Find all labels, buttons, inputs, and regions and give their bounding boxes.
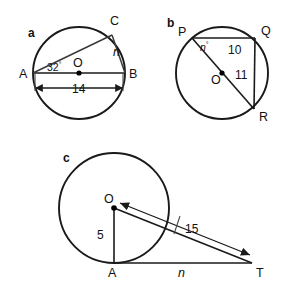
panel-b-angle-degree: °	[206, 41, 209, 48]
panel-c-group: c O A T 5 15 n	[59, 151, 264, 280]
panel-c-radius-label: 5	[97, 228, 104, 242]
panel-b-angle-label: n°	[200, 41, 209, 53]
panel-a-vertex-C: C	[110, 14, 119, 28]
geometry-figure-page: a A B C O 32° 14 n b P Q R O n° 10	[0, 0, 302, 290]
panel-c-hypotenuse-OT	[114, 208, 252, 263]
panel-c-center-label: O	[104, 192, 114, 206]
panel-a-center-dot	[76, 70, 81, 75]
panel-a-letter: a	[28, 26, 35, 40]
panel-b-chord-QR	[254, 38, 255, 109]
panel-a-angle-label: 32°	[47, 61, 62, 73]
panel-c-vertex-A: A	[108, 266, 117, 280]
panel-c-vertex-T: T	[256, 266, 264, 280]
panel-b-letter: b	[167, 16, 174, 30]
panel-b-group: b P Q R O n° 10 11	[167, 16, 271, 124]
panel-c-letter: c	[63, 151, 70, 165]
geometry-diagram-svg: a A B C O 32° 14 n b P Q R O n° 10	[0, 0, 302, 290]
panel-a-angle-value: 32	[47, 61, 59, 73]
panel-b-center-label: O	[211, 73, 221, 87]
panel-c-hypotenuse-label: 15	[185, 222, 199, 236]
panel-b-vertex-P: P	[178, 25, 186, 39]
panel-b-chord-pq-label: 10	[228, 43, 242, 57]
panel-b-vertex-Q: Q	[261, 24, 271, 38]
panel-a-vertex-A: A	[19, 67, 28, 81]
panel-b-vertex-R: R	[259, 110, 268, 124]
panel-a-center-label: O	[73, 56, 83, 70]
panel-a-chord-label: n	[113, 45, 120, 59]
panel-c-tangent-label: n	[178, 266, 185, 280]
panel-a-vertex-B: B	[129, 67, 137, 81]
panel-a-diameter-label: 14	[72, 82, 86, 96]
panel-c-center-dot	[111, 205, 117, 211]
panel-a-group: a A B C O 32° 14 n	[19, 14, 137, 119]
panel-b-chord-qr-label: 11	[235, 68, 248, 82]
panel-a-angle-degree: °	[59, 61, 62, 68]
